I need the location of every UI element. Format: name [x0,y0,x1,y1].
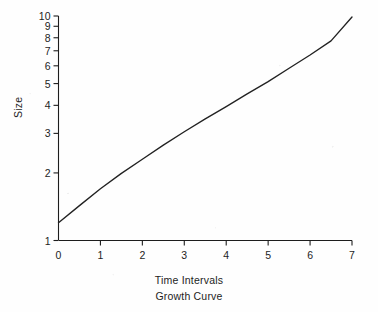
y-axis-tick-label: 6 [45,61,51,72]
x-axis-label: Time Intervals [0,274,378,286]
growth-curve-plot [0,0,378,312]
y-axis-tick-label: 7 [45,46,51,57]
x-axis-tick-label: 2 [139,250,145,261]
y-axis-label: Size [12,97,24,118]
y-axis-tick-label: 10 [39,11,51,22]
y-axis-tick-label: 3 [45,128,51,139]
y-axis-tick-marks [54,16,59,241]
y-axis-tick-label: 2 [45,168,51,179]
x-axis-tick-label: 6 [307,250,313,261]
y-axis-tick-label: 5 [45,78,51,89]
y-axis-tick-label: 9 [45,21,51,32]
x-axis-tick-label: 4 [223,250,229,261]
figure-page: 12345678910 01234567 Size Time Intervals… [0,0,378,312]
x-axis-tick-marks [100,241,352,246]
y-axis-tick-label: 8 [45,33,51,44]
x-axis-tick-label: 3 [181,250,187,261]
growth-curve-line [59,17,353,223]
x-axis-tick-label: 5 [265,250,271,261]
axes-group [59,16,353,241]
y-axis-tick-label: 1 [45,235,51,246]
x-axis-tick-label: 1 [98,250,104,261]
x-axis-tick-label: 0 [56,250,62,261]
x-axis-tick-label: 7 [349,250,355,261]
y-axis-tick-label: 4 [45,100,51,111]
figure-caption: Growth Curve [0,290,378,302]
